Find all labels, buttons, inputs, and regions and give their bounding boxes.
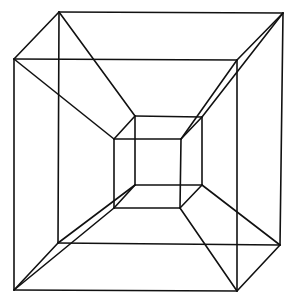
edge-outer_back_tl-outer_back_tr xyxy=(59,12,283,13)
edge-outer_back_br-outer_back_bl xyxy=(58,243,280,245)
edge-outer_back_br-outer_front_br xyxy=(237,245,280,291)
edge-outer_back_bl-outer_front_bl xyxy=(14,243,58,290)
edge-outer_front_tr-inner_front_tr xyxy=(181,60,237,139)
tesseract-diagram xyxy=(0,0,287,298)
edge-outer_front_tl-outer_front_tr xyxy=(14,59,237,60)
edge-outer_front_tl-inner_front_tl xyxy=(14,59,114,139)
edge-outer_back_br-inner_back_br xyxy=(202,185,280,245)
edge-inner_back_tl-inner_front_tl xyxy=(114,116,135,139)
edge-outer_back_bl-inner_back_bl xyxy=(58,185,135,243)
edge-outer_back_tl-outer_front_tl xyxy=(14,12,59,59)
edge-outer_back_tr-outer_back_br xyxy=(280,13,283,245)
edge-inner_back_tl-inner_back_tr xyxy=(135,116,202,117)
tesseract-wireframe xyxy=(0,0,287,298)
edge-outer_front_bl-inner_front_bl xyxy=(14,208,114,290)
edge-outer_back_tr-outer_front_tr xyxy=(237,13,283,60)
edge-outer_front_br-outer_front_bl xyxy=(14,290,237,291)
edge-inner_back_bl-inner_front_bl xyxy=(114,185,135,208)
edge-outer_back_bl-outer_back_tl xyxy=(58,12,59,243)
edge-outer_back_tl-inner_back_tl xyxy=(59,12,135,116)
edge-inner_back_br-inner_front_br xyxy=(180,185,202,208)
edge-inner_front_tr-inner_front_br xyxy=(180,139,181,208)
edge-outer_back_tr-inner_back_tr xyxy=(202,13,283,117)
edge-outer_front_br-inner_front_br xyxy=(180,208,237,291)
